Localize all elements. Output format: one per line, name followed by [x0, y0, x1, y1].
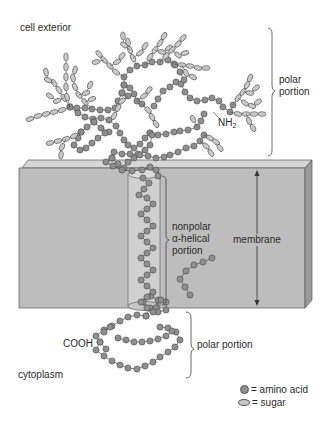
amino-acid-bead	[134, 366, 140, 372]
amino-acid-bead	[177, 69, 183, 75]
amino-acid-bead	[161, 154, 167, 160]
amino-acid-bead	[153, 155, 159, 161]
amino-acid-bead	[138, 233, 144, 239]
amino-acid-bead	[139, 167, 145, 173]
amino-acid-bead	[157, 324, 163, 330]
amino-acid-bead	[144, 305, 150, 311]
membrane-top-face	[22, 160, 312, 168]
amino-acid-bead	[142, 363, 148, 369]
amino-acid-bead	[187, 95, 193, 101]
polar-label-line2: portion	[279, 86, 310, 98]
sugar-bead	[50, 109, 59, 115]
amino-acid-bead	[137, 141, 143, 147]
amino-acid-bead	[149, 132, 155, 138]
diagram-canvas	[0, 0, 328, 422]
amino-acid-bead	[177, 128, 183, 134]
nonpolar-line3: portion	[172, 245, 211, 257]
amino-acid-chain	[93, 312, 149, 339]
amino-acid-bead	[163, 131, 169, 137]
sugar-branch	[204, 134, 224, 152]
amino-acid-chain	[71, 129, 108, 153]
amino-acid-bead	[144, 250, 150, 256]
amino-acid-bead	[117, 318, 123, 324]
amino-acid-bead	[150, 289, 156, 295]
amino-acid-bead	[150, 309, 156, 315]
amino-acid-bead	[140, 175, 146, 181]
amino-acid-bead	[146, 180, 152, 186]
amino-acid-bead	[131, 155, 137, 161]
amino-acid-bead	[136, 192, 142, 198]
amino-acid-bead	[142, 135, 148, 141]
amino-acid-bead	[163, 333, 169, 339]
amino-acid-bead	[98, 115, 104, 121]
amino-acid-bead	[144, 283, 150, 289]
polar-bottom-brace	[186, 312, 194, 378]
amino-acid-bead	[202, 97, 208, 103]
amino-acid-bead	[75, 110, 81, 116]
nh2-label: NH2	[218, 117, 236, 132]
sugar-branch	[25, 106, 70, 122]
amino-acid-bead	[144, 272, 150, 278]
amino-acid-bead	[101, 329, 107, 335]
amino-acid-bead	[167, 152, 173, 158]
amino-acid-bead	[82, 114, 88, 120]
sugar-branch	[238, 98, 263, 110]
sugar-bead	[250, 112, 258, 117]
amino-acid-bead	[105, 107, 111, 113]
amino-acid-bead	[115, 335, 121, 341]
amino-acid-bead	[109, 155, 115, 161]
amino-acid-bead	[201, 111, 207, 117]
amino-acid-bead	[171, 129, 177, 135]
sugar-bead	[58, 151, 64, 160]
sugar-branch	[125, 38, 137, 66]
cell-exterior-label: cell exterior	[20, 22, 71, 34]
sugar-bead	[110, 111, 118, 120]
sugar-bead	[58, 142, 66, 151]
amino-acid-bead	[163, 307, 169, 313]
sugar-bead	[194, 65, 203, 71]
amino-acid-bead	[84, 124, 90, 130]
amino-acid-bead	[165, 349, 171, 355]
sugar-bead	[246, 73, 253, 82]
membrane-side-face	[305, 160, 312, 308]
amino-acid-bead	[107, 324, 113, 330]
amino-acid-chain	[151, 79, 179, 109]
amino-acid-bead	[155, 173, 161, 179]
amino-acid-bead	[157, 354, 163, 360]
amino-acid-bead	[97, 339, 103, 345]
amino-acid-bead	[144, 239, 150, 245]
amino-acid-bead	[187, 292, 193, 298]
sugar-bead	[45, 92, 54, 100]
amino-acid-bead	[177, 276, 183, 282]
amino-acid-bead	[101, 353, 107, 359]
sugar-bead	[181, 50, 190, 57]
amino-acid-bead	[144, 195, 150, 201]
amino-acid-bead	[138, 277, 144, 283]
polar-portion-top-label: polar portion	[279, 74, 310, 98]
amino-acid-bead	[144, 261, 150, 267]
sugar-bead	[25, 115, 34, 122]
amino-acid-bead	[172, 344, 178, 350]
amino-acid-bead	[119, 151, 125, 157]
amino-acid-bead	[182, 89, 188, 95]
sugar-bead	[34, 113, 43, 119]
amino-acid-swatch-icon	[240, 385, 249, 394]
amino-acid-bead	[103, 346, 109, 352]
amino-acid-bead	[185, 127, 191, 133]
nh2-main: NH	[218, 117, 232, 128]
transmembrane-glycoprotein-diagram: cell exterior polar portion NH2 nonpolar…	[0, 0, 328, 422]
amino-acid-bead	[216, 98, 222, 104]
sugar-bead	[92, 59, 101, 65]
sugar-bead	[135, 49, 144, 57]
amino-acid-bead	[150, 359, 156, 365]
amino-acid-bead	[155, 96, 161, 102]
amino-acid-bead	[137, 152, 143, 158]
amino-acid-bead	[160, 88, 166, 94]
amino-acid-bead	[127, 67, 133, 73]
amino-acid-bead	[82, 105, 88, 111]
amino-acid-bead	[71, 142, 77, 148]
amino-acid-bead	[144, 294, 150, 300]
amino-acid-bead	[111, 149, 117, 155]
amino-acid-bead	[110, 163, 116, 169]
amino-acid-bead	[123, 337, 129, 343]
